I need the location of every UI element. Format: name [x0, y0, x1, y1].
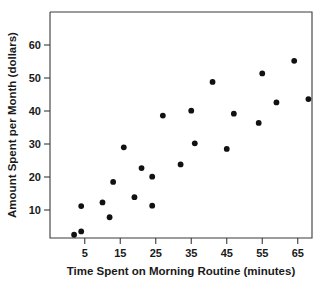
data-point: [188, 108, 194, 114]
y-tick-label: 10: [29, 204, 41, 216]
x-axis-title: Time Spent on Morning Routine (minutes): [67, 265, 296, 277]
data-point: [231, 111, 237, 117]
x-tick-label: 15: [114, 247, 126, 259]
data-point: [71, 232, 77, 238]
data-point: [224, 146, 230, 152]
data-point: [210, 79, 216, 85]
data-point: [107, 214, 113, 220]
data-point: [291, 58, 297, 64]
data-point: [121, 144, 127, 150]
y-tick-label: 30: [29, 138, 41, 150]
x-tick-label: 35: [185, 247, 197, 259]
x-tick-label: 25: [150, 247, 162, 259]
data-point: [192, 140, 198, 146]
data-point: [78, 203, 84, 209]
x-tick-label: 65: [292, 247, 304, 259]
data-point: [149, 203, 155, 209]
x-tick-label: 55: [256, 247, 268, 259]
data-point: [139, 165, 145, 171]
y-tick-label: 60: [29, 39, 41, 51]
data-point: [78, 229, 84, 235]
x-tick-label: 5: [82, 247, 88, 259]
y-tick-label: 20: [29, 171, 41, 183]
data-point: [160, 113, 166, 119]
data-point: [132, 194, 138, 200]
data-point: [178, 162, 184, 168]
chart-background: [0, 0, 326, 290]
x-tick-label: 45: [221, 247, 233, 259]
chart-canvas: 5152535455565 102030405060 Time Spent on…: [0, 0, 326, 290]
data-point: [306, 96, 312, 102]
data-point: [149, 174, 155, 180]
y-axis-title: Amount Spent per Month (dollars): [6, 32, 18, 218]
data-point: [256, 120, 262, 126]
scatter-plot-figure: 5152535455565 102030405060 Time Spent on…: [0, 0, 326, 290]
y-tick-label: 50: [29, 72, 41, 84]
data-point: [274, 100, 280, 106]
data-point: [110, 179, 116, 185]
y-tick-label: 40: [29, 105, 41, 117]
data-point: [100, 200, 106, 206]
data-point: [259, 70, 265, 76]
